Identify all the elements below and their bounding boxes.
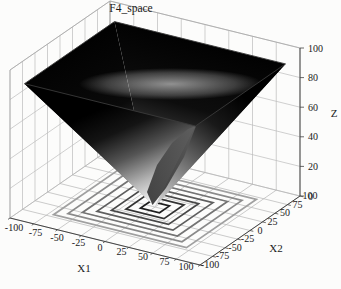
figure-f4-space: -100-75-50-250255075100-100-75-50-250255…	[0, 0, 341, 289]
z-axis-label: Z	[331, 107, 338, 119]
tick-label: -75	[29, 227, 42, 238]
tick-label: -100	[5, 222, 23, 233]
funnel-surface	[25, 22, 286, 207]
tick-label: 100	[179, 261, 194, 272]
tick-label: 80	[308, 72, 318, 83]
tick-label: -50	[50, 232, 63, 243]
tick-label: 25	[117, 246, 127, 257]
tick-label: 25	[268, 216, 278, 227]
tick-label: 75	[160, 256, 170, 267]
plot-title: F4_space	[109, 2, 152, 15]
tick-label: -25	[241, 233, 254, 244]
tick-label: -75	[216, 250, 229, 261]
tick-label: 0	[258, 225, 263, 236]
x1-axis-label: X1	[77, 262, 90, 274]
tick-label: -50	[228, 242, 241, 253]
tick-label: 75	[293, 199, 303, 210]
surface-plot-3d: -100-75-50-250255075100-100-75-50-250255…	[0, 0, 341, 289]
x2-axis-label: X2	[269, 242, 282, 254]
tick-label: 60	[308, 102, 318, 113]
tick-label: -25	[72, 237, 85, 248]
tick-label: 50	[138, 251, 148, 262]
tick-label: 0	[98, 242, 103, 253]
tick-label: 50	[280, 207, 290, 218]
tick-label: 20	[308, 161, 318, 172]
tick-label: 100	[308, 43, 323, 54]
tick-label: 0	[308, 191, 313, 202]
funnel-valley-highlight	[79, 68, 263, 100]
tick-label: 40	[308, 131, 318, 142]
